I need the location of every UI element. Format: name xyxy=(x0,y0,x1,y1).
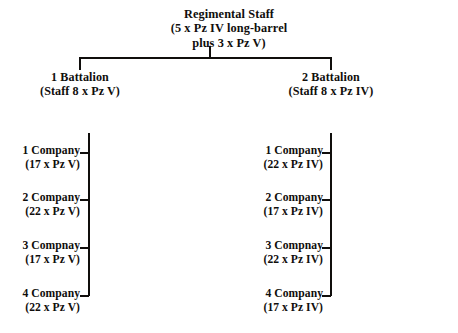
b1-company-2-name: 2 Company xyxy=(0,191,80,205)
bracket-tick-b1-company-1 xyxy=(80,152,89,154)
b1-company-4-strength: (22 x Pz V) xyxy=(0,301,80,315)
connector-drop-battalion-1 xyxy=(79,57,81,70)
node-b2-company-4: 4 Company (17 x Pz IV) xyxy=(243,287,323,314)
b2-company-2-strength: (17 x Pz IV) xyxy=(243,205,323,219)
bracket-spine-battalion-1 xyxy=(88,133,90,296)
b1-company-3-strength: (17 x Pz V) xyxy=(0,253,80,267)
node-b2-company-1: 1 Company (22 x Pz IV) xyxy=(243,144,323,171)
b2-company-1-strength: (22 x Pz IV) xyxy=(243,158,323,172)
organization-chart: Regimental Staff (5 x Pz IV long-barrel … xyxy=(0,0,458,333)
b2-company-3-name: 3 Compnay xyxy=(243,239,323,253)
node-b1-company-2: 2 Company (22 x Pz V) xyxy=(0,191,80,218)
connector-drop-battalion-2 xyxy=(330,57,332,70)
bracket-tick-b2-company-3 xyxy=(322,247,331,249)
bracket-tick-b2-company-4 xyxy=(322,295,331,297)
b2-company-4-name: 4 Company xyxy=(243,287,323,301)
b1-company-2-strength: (22 x Pz V) xyxy=(0,205,80,219)
battalion-1-staff: (Staff 8 x Pz V) xyxy=(0,84,160,98)
node-b1-company-3: 3 Compnay (17 x Pz V) xyxy=(0,239,80,266)
battalion-2-staff: (Staff 8 x Pz IV) xyxy=(251,84,411,98)
connector-battalion-spine xyxy=(79,57,331,59)
node-b2-company-2: 2 Company (17 x Pz IV) xyxy=(243,191,323,218)
bracket-spine-battalion-2 xyxy=(330,133,332,296)
node-regimental-staff: Regimental Staff (5 x Pz IV long-barrel … xyxy=(0,7,458,50)
node-b2-company-3: 3 Compnay (22 x Pz IV) xyxy=(243,239,323,266)
node-b1-company-4: 4 Company (22 x Pz V) xyxy=(0,287,80,314)
battalion-2-name: 2 Battalion xyxy=(251,70,411,84)
node-battalion-1: 1 Battalion (Staff 8 x Pz V) xyxy=(0,70,160,98)
b2-company-1-name: 1 Company xyxy=(243,144,323,158)
b1-company-4-name: 4 Company xyxy=(0,287,80,301)
node-battalion-2: 2 Battalion (Staff 8 x Pz IV) xyxy=(251,70,411,98)
regimental-staff-detail-1: (5 x Pz IV long-barrel xyxy=(0,21,458,35)
b2-company-2-name: 2 Company xyxy=(243,191,323,205)
regimental-staff-title: Regimental Staff xyxy=(0,7,458,21)
bracket-tick-b1-company-4 xyxy=(80,295,89,297)
bracket-tick-b2-company-1 xyxy=(322,152,331,154)
regimental-staff-detail-2: plus 3 x Pz V) xyxy=(0,36,458,50)
b2-company-4-strength: (17 x Pz IV) xyxy=(243,301,323,315)
b2-company-3-strength: (22 x Pz IV) xyxy=(243,253,323,267)
b1-company-3-name: 3 Compnay xyxy=(0,239,80,253)
b1-company-1-name: 1 Company xyxy=(0,144,80,158)
b1-company-1-strength: (17 x Pz V) xyxy=(0,158,80,172)
battalion-1-name: 1 Battalion xyxy=(0,70,160,84)
bracket-tick-b1-company-3 xyxy=(80,247,89,249)
bracket-tick-b2-company-2 xyxy=(322,199,331,201)
node-b1-company-1: 1 Company (17 x Pz V) xyxy=(0,144,80,171)
bracket-tick-b1-company-2 xyxy=(80,199,89,201)
